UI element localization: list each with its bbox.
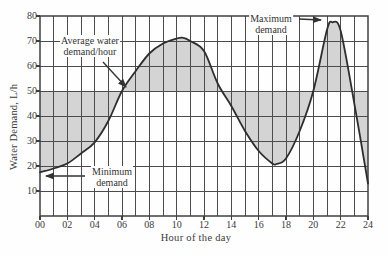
y-tick-label-80: 80 — [15, 10, 37, 22]
x-tick-label-22: 22 — [328, 219, 354, 231]
y-tick-label-30: 30 — [15, 135, 37, 147]
annotation-minimum-line-1: Minimum — [92, 166, 132, 177]
annotation-minimum-line-2: demand — [92, 177, 132, 188]
annotation-average-line-2: demand/hour — [61, 46, 119, 57]
x-tick-label-04: 04 — [82, 219, 108, 231]
y-tick-label-60: 60 — [15, 60, 37, 72]
annotation-arrow-maximum — [299, 19, 321, 20]
x-tick-label-02: 02 — [54, 219, 80, 231]
y-tick-label-40: 40 — [15, 110, 37, 122]
x-tick-label-00: 00 — [27, 219, 53, 231]
annotation-average-demand: Average water demand/hour — [60, 35, 120, 57]
y-tick-label-50: 50 — [15, 85, 37, 97]
x-tick-label-14: 14 — [218, 219, 244, 231]
x-tick-label-20: 20 — [300, 219, 326, 231]
annotation-maximum-demand: Maximum demand — [249, 13, 293, 35]
x-axis-title: Hour of the day — [161, 232, 232, 243]
y-tick-label-10: 10 — [15, 185, 37, 197]
y-tick-label-70: 70 — [15, 35, 37, 47]
x-tick-label-06: 06 — [109, 219, 135, 231]
x-tick-label-12: 12 — [191, 219, 217, 231]
annotation-minimum-demand: Minimum demand — [91, 166, 133, 188]
annotation-average-line-1: Average water — [61, 35, 119, 46]
x-tick-label-10: 10 — [164, 219, 190, 231]
x-tick-label-08: 08 — [136, 219, 162, 231]
water-demand-figure: Water Demand, L/h Hour of the day Averag… — [0, 0, 388, 256]
x-tick-label-18: 18 — [273, 219, 299, 231]
x-tick-label-24: 24 — [355, 219, 381, 231]
y-tick-label-20: 20 — [15, 160, 37, 172]
annotation-maximum-line-1: Maximum — [250, 13, 292, 24]
chart-canvas — [0, 0, 388, 256]
annotation-maximum-line-2: demand — [250, 24, 292, 35]
x-tick-label-16: 16 — [246, 219, 272, 231]
